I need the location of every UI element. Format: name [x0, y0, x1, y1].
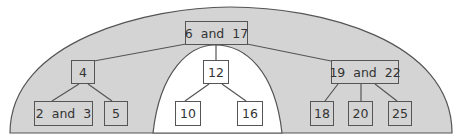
node-20: 20 [348, 101, 373, 126]
node-root: 6 and 17 [185, 21, 248, 45]
two-three-tree-diagram: 6 and 17 4 12 19 and 22 2 and 3 5 10 16 … [0, 0, 463, 140]
node-5: 5 [104, 101, 128, 126]
node-12: 12 [203, 60, 229, 84]
node-19-22: 19 and 22 [331, 60, 399, 84]
node-18: 18 [310, 101, 334, 126]
node-2-3: 2 and 3 [34, 101, 93, 126]
node-16: 16 [237, 101, 263, 126]
node-4: 4 [71, 60, 95, 84]
node-25: 25 [388, 101, 412, 126]
node-10: 10 [175, 101, 201, 126]
